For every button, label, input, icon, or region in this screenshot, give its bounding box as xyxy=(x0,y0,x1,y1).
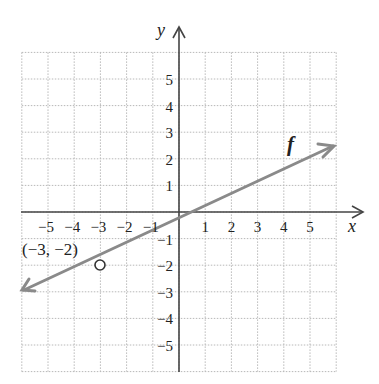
x-tick-label: 5 xyxy=(306,219,314,235)
x-tick-label: −3 xyxy=(90,219,106,235)
y-tick-label: 5 xyxy=(166,72,174,88)
y-tick-label: 2 xyxy=(166,152,174,168)
y-tick-label: −5 xyxy=(157,338,173,354)
x-tick-label: 1 xyxy=(201,219,209,235)
x-tick-labels: −5−4−3−2−112345 xyxy=(38,219,314,235)
x-tick-label: 2 xyxy=(228,219,236,235)
y-tick-label: −3 xyxy=(157,285,173,301)
y-tick-label: −2 xyxy=(157,258,173,274)
y-tick-label: 3 xyxy=(166,125,174,141)
point-label: (−3, −2) xyxy=(22,240,78,259)
function-label: f xyxy=(287,132,296,156)
coordinate-plane: y x f (−3, −2) −5−4−3−2−112345 54321−1−2… xyxy=(0,0,379,384)
x-tick-label: −5 xyxy=(38,219,54,235)
y-axis-label: y xyxy=(155,20,165,40)
y-tick-label: −1 xyxy=(157,232,173,248)
x-tick-label: −2 xyxy=(117,219,133,235)
function-f-line xyxy=(22,144,334,291)
y-tick-labels: 54321−1−2−3−4−5 xyxy=(157,72,173,354)
y-tick-label: 1 xyxy=(166,178,174,194)
x-tick-label: −4 xyxy=(64,219,80,235)
x-tick-label: 4 xyxy=(280,219,288,235)
y-tick-label: 4 xyxy=(166,99,174,115)
x-tick-label: 3 xyxy=(254,219,262,235)
open-point xyxy=(95,260,105,270)
axes xyxy=(21,27,363,372)
y-tick-label: −4 xyxy=(157,311,173,327)
x-axis-label: x xyxy=(347,216,356,236)
